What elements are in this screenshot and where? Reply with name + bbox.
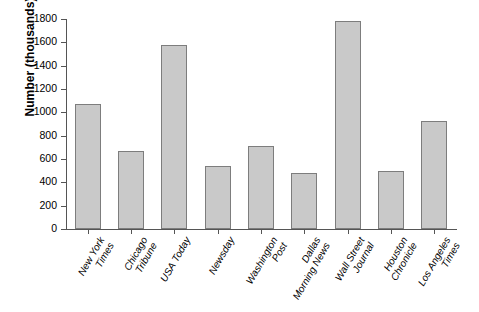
x-tick: [391, 229, 392, 234]
y-tick-label: 1000: [17, 105, 57, 117]
y-tick-label: 800: [17, 129, 57, 141]
y-tick: 800: [61, 136, 66, 137]
bar: [378, 171, 404, 229]
y-tick: 1800: [61, 19, 66, 20]
x-tick: [304, 229, 305, 234]
y-tick: 1400: [61, 66, 66, 67]
x-tick: [131, 229, 132, 234]
y-tick-label: 1600: [17, 35, 57, 47]
y-tick-label: 200: [17, 199, 57, 211]
bar: [118, 151, 144, 229]
y-axis-line: [66, 19, 67, 230]
bar: [421, 121, 447, 229]
x-tick: [88, 229, 89, 234]
x-tick: [174, 229, 175, 234]
y-tick: 200: [61, 206, 66, 207]
bar: [75, 104, 101, 229]
bar: [205, 166, 231, 229]
x-tick: [434, 229, 435, 234]
y-tick-label: 600: [17, 152, 57, 164]
x-tick: [261, 229, 262, 234]
bar-chart: Number (thousands) 020040060080010001200…: [0, 0, 479, 312]
bar: [291, 173, 317, 229]
y-tick-label: 400: [17, 175, 57, 187]
y-tick: 1600: [61, 42, 66, 43]
x-tick: [218, 229, 219, 234]
bar: [161, 45, 187, 229]
bar: [335, 21, 361, 229]
plot-area: 020040060080010001200140016001800 New Yo…: [66, 19, 456, 229]
y-tick: 1000: [61, 112, 66, 113]
y-tick-label: 1800: [17, 12, 57, 24]
y-tick: 400: [61, 182, 66, 183]
y-tick: 1200: [61, 89, 66, 90]
y-tick-label: 0: [17, 222, 57, 234]
y-tick: 0: [61, 229, 66, 230]
y-tick-label: 1400: [17, 59, 57, 71]
y-tick: 600: [61, 159, 66, 160]
x-tick: [348, 229, 349, 234]
y-tick-label: 1200: [17, 82, 57, 94]
bar: [248, 146, 274, 229]
